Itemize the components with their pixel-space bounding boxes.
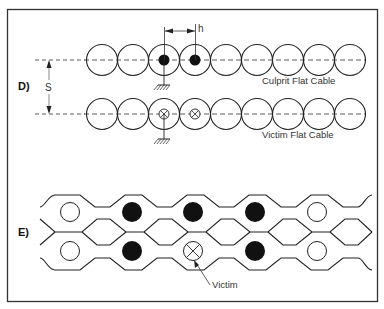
h-arrow-right	[187, 29, 195, 34]
s-label: S	[45, 82, 52, 93]
ribbon-conductor-filled	[245, 202, 265, 222]
h-arrow-left	[165, 29, 173, 34]
ribbon-conductor-open	[308, 242, 327, 261]
panel-e-label: E)	[18, 226, 29, 238]
ribbon-middle-upper-line	[40, 219, 372, 232]
s-arrow-up	[47, 60, 52, 68]
ribbon-conductor-open	[308, 203, 327, 222]
ribbon-bottom-line	[40, 258, 372, 270]
ribbon-conductor-filled	[245, 241, 265, 261]
ribbon-conductor-open	[61, 203, 80, 222]
ribbon-conductor-filled	[183, 202, 203, 222]
diagram: D) S h Culprit Flat Cable Victim Flat Ca…	[0, 0, 384, 309]
ribbon-conductor-open	[61, 242, 80, 261]
panel-d-label: D)	[18, 80, 30, 92]
culprit-active-conductor-filled	[190, 55, 201, 66]
s-arrow-down	[47, 106, 52, 114]
h-label: h	[198, 23, 204, 34]
ribbon-conductor-filled	[122, 241, 142, 261]
victim-cable-label: Victim Flat Cable	[262, 129, 334, 140]
ribbon-conductor-filled	[122, 202, 142, 222]
victim-label: Victim	[212, 279, 238, 290]
culprit-cable-label: Culprit Flat Cable	[262, 75, 335, 86]
